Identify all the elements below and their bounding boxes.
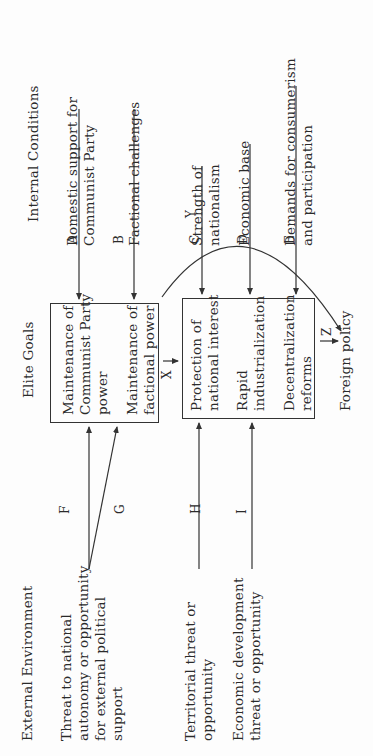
arrow-g	[89, 427, 117, 569]
connector-arrows	[0, 0, 373, 756]
arrow-y	[162, 246, 341, 331]
foreign-policy-diagram: Internal Conditions Elite Goals External…	[0, 0, 373, 756]
